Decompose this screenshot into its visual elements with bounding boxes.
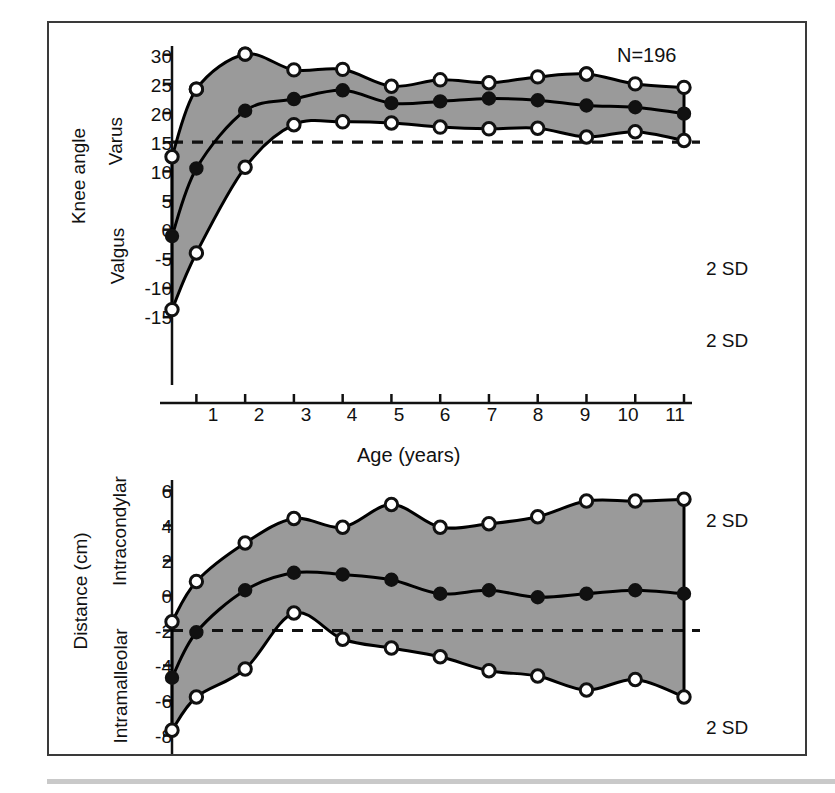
bottom-sd-upper-label: 2 SD bbox=[706, 510, 748, 532]
figure-bottom-rule bbox=[47, 779, 835, 784]
varus-label: Varus bbox=[105, 91, 127, 191]
knee-angle-plot bbox=[160, 30, 700, 415]
bottom-sd-lower-label: 2 SD bbox=[706, 717, 748, 739]
top-sd-lower-label: 2 SD bbox=[706, 330, 748, 352]
distance-plot bbox=[160, 470, 700, 760]
distance-axis-title: Distance (cm) bbox=[70, 506, 92, 676]
top-sd-upper-label: 2 SD bbox=[706, 258, 748, 280]
figure-page: Knee angle Varus Valgus N=196 2 SD 2 SD … bbox=[0, 0, 835, 793]
x-axis-title: Age (years) bbox=[357, 444, 460, 467]
knee-angle-axis-title: Knee angle bbox=[68, 106, 90, 246]
